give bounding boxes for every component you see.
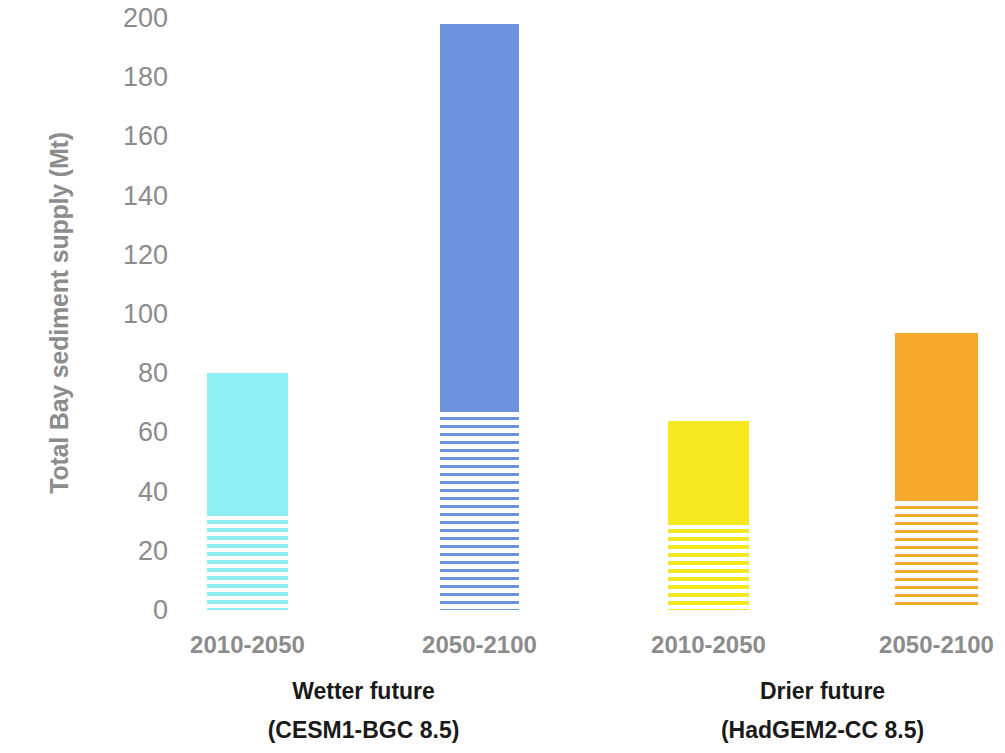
plot-area [0, 0, 1005, 625]
bar-segment-solid [440, 24, 519, 409]
x-axis-tick-labels: 2010-20502050-21002010-20502050-2100 [0, 628, 1005, 668]
bar-segment-solid [207, 373, 288, 512]
bar-segment-solid [895, 333, 978, 497]
x-axis-tick-label: 2010-2050 [138, 628, 358, 662]
bar-segment-hatched [668, 521, 749, 610]
x-axis-group-label: Drier future(HadGEM2-CC 8.5) [643, 672, 1003, 750]
group-label-name: Drier future [643, 672, 1003, 711]
x-axis-tick-label: 2050-2100 [370, 628, 590, 662]
x-axis-tick-label: 2050-2100 [827, 628, 1005, 662]
group-label-model: (CESM1-BGC 8.5) [184, 711, 544, 750]
x-axis-group-labels: Wetter future(CESM1-BGC 8.5)Drier future… [0, 672, 1005, 753]
bar [440, 24, 519, 610]
group-label-model: (HadGEM2-CC 8.5) [643, 711, 1003, 750]
bar [895, 333, 978, 610]
bar-chart: Total Bay sediment supply (Mt) 200180160… [0, 0, 1005, 753]
bar-segment-hatched [207, 512, 288, 610]
bar-segment-solid [668, 421, 749, 522]
bar [207, 373, 288, 610]
bar [668, 421, 749, 610]
x-axis-group-label: Wetter future(CESM1-BGC 8.5) [184, 672, 544, 750]
x-axis-tick-label: 2010-2050 [599, 628, 819, 662]
bar-segment-hatched [895, 498, 978, 610]
bar-segment-hatched [440, 409, 519, 610]
group-label-name: Wetter future [184, 672, 544, 711]
